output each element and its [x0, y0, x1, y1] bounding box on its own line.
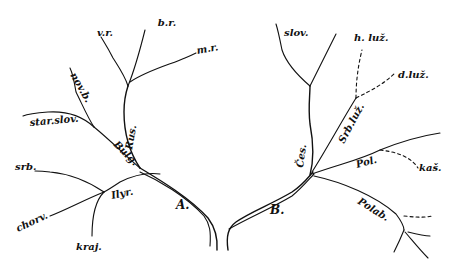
trunk [140, 168, 314, 250]
branch-a [23, 30, 196, 236]
label-kraj: kraj. [76, 241, 102, 252]
label-pol: Pol. [354, 154, 378, 170]
branch-polab-d [408, 232, 430, 236]
label-ilyr: Ilyr. [109, 186, 134, 202]
label-chorv: chorv. [14, 210, 49, 234]
branch-slov-right [310, 34, 336, 86]
branch-b [276, 24, 440, 258]
label-mr: m.r. [196, 41, 219, 56]
branch-dluz [356, 72, 396, 98]
branch-kas [380, 150, 418, 168]
labels: v.r. b.r. m.r. nov.b. star.slov. srb. ch… [14, 17, 441, 252]
branch-chorv [50, 192, 104, 216]
branch-srb [35, 171, 104, 192]
label-novb: nov.b. [68, 71, 94, 105]
trunk-inner-right [229, 174, 314, 229]
label-trunk-a: A. [175, 198, 190, 212]
branch-mr [130, 53, 196, 82]
branch-hluz [356, 50, 362, 98]
label-starslov: star.slov. [29, 113, 79, 128]
tree-canvas: v.r. b.r. m.r. nov.b. star.slov. srb. ch… [0, 0, 454, 269]
branch-kraj [92, 192, 104, 236]
label-srb: srb. [15, 161, 36, 172]
branch-polab-c [404, 216, 432, 217]
slavic-language-tree: v.r. b.r. m.r. nov.b. star.slov. srb. ch… [0, 0, 454, 269]
label-trunk-b: B. [269, 203, 284, 217]
label-vr: v.r. [97, 27, 113, 38]
branch-ces [309, 86, 313, 175]
label-dluz: d.luž. [398, 69, 429, 80]
label-ces: Čes. [294, 144, 308, 169]
label-hluz: h. luž. [354, 32, 388, 43]
label-slov: slov. [284, 27, 308, 38]
branch-polab-a [394, 230, 404, 252]
label-polab: Polab. [355, 195, 391, 223]
label-kas: kaš. [419, 162, 442, 173]
branch-vr [101, 37, 128, 86]
label-br: b.r. [158, 17, 176, 28]
